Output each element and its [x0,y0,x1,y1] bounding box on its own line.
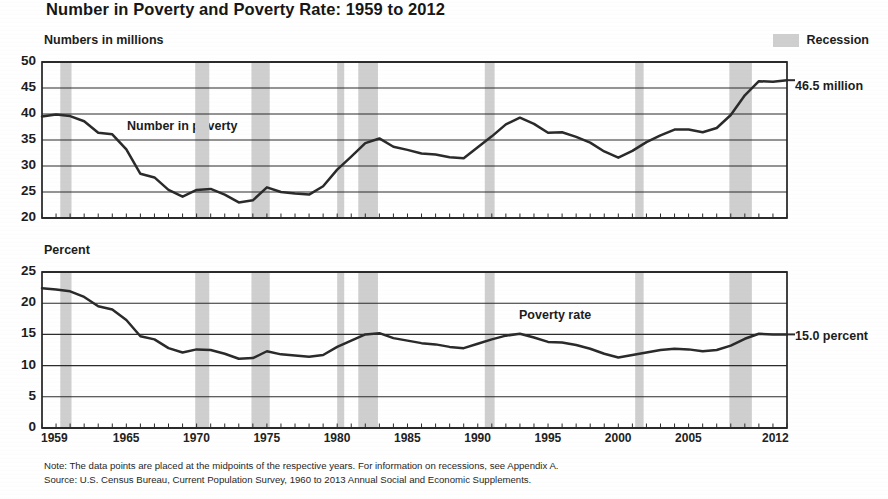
recession-band [251,272,269,428]
xtick-label: 2005 [675,431,702,445]
top-ytick-label: 20 [2,209,36,224]
bottom-panel-plot [42,272,795,428]
xtick-label: 1990 [464,431,491,445]
xtick-label: 1970 [183,431,210,445]
top-ytick-label: 30 [2,157,36,172]
top-ytick-label: 45 [2,79,36,94]
top-panel-plot [42,62,795,218]
bottom-ytick-label: 5 [2,388,36,403]
xtick-label: 1965 [113,431,140,445]
bottom-ytick-label: 25 [2,263,36,278]
top-ytick-label: 40 [2,105,36,120]
xtick-label: 1959 [41,431,68,445]
footnote-note: Note: The data points are placed at the … [44,459,558,473]
xtick-label: 1975 [253,431,280,445]
xtick-label: 2000 [605,431,632,445]
recession-band [337,272,344,428]
recession-band [635,272,643,428]
recession-band [729,272,751,428]
top-ytick-label: 25 [2,183,36,198]
footnotes: Note: The data points are placed at the … [44,459,558,486]
xtick-label: 1980 [324,431,351,445]
series-line-bottom [42,288,787,359]
bottom-ytick-label: 15 [2,325,36,340]
bottom-ytick-label: 20 [2,294,36,309]
xtick-label: 1995 [535,431,562,445]
top-ytick-label: 50 [2,53,36,68]
recession-band [358,272,378,428]
recession-band [60,272,71,428]
xtick-label: 1985 [394,431,421,445]
poverty-chart-figure: Number in Poverty and Poverty Rate: 1959… [0,0,888,499]
bottom-ytick-label: 10 [2,357,36,372]
footnote-source: Source: U.S. Census Bureau, Current Popu… [44,473,558,487]
recession-band [485,272,495,428]
bottom-ytick-label: 0 [2,419,36,434]
xtick-label: 2012 [762,431,789,445]
series-line-top [42,80,787,202]
top-ytick-label: 35 [2,131,36,146]
plot-canvas [0,0,888,499]
